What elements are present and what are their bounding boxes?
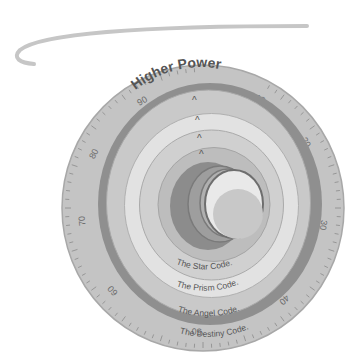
marker-angel: ^ — [195, 115, 200, 126]
scale-tick — [66, 225, 70, 226]
marker-destiny: ^ — [192, 95, 197, 106]
scale-tick — [336, 225, 340, 226]
marker-prism: ^ — [197, 133, 202, 144]
scale-tick — [186, 343, 187, 347]
scale-label: 70 — [77, 215, 88, 226]
scale-tick — [66, 190, 70, 191]
marker-star: ^ — [199, 149, 204, 160]
higher-power-dial-diagram: 102030405060708090 Higher Power ^ ^ ^ ^ — [0, 0, 364, 364]
scale-tick — [220, 343, 221, 347]
swoosh-decoration — [17, 26, 307, 64]
scale-tick — [336, 190, 340, 191]
